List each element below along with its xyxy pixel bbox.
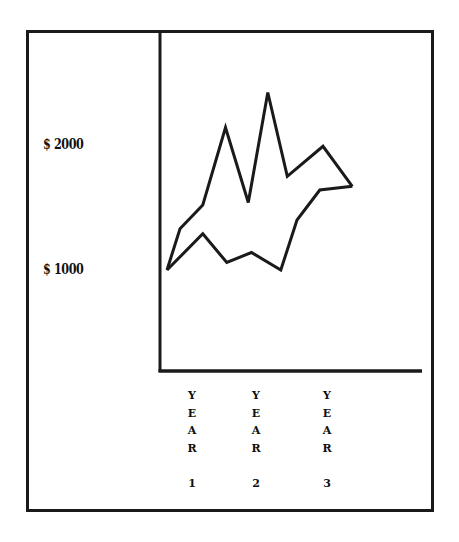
series-lower-line <box>167 186 352 270</box>
x-tick-label-year-2: Y E A R 2 <box>249 387 263 493</box>
x-label-number: 3 <box>320 475 334 493</box>
x-label-number: 2 <box>249 475 263 493</box>
x-label-letter: R <box>320 440 334 458</box>
x-label-letter: R <box>249 440 263 458</box>
y-tick-label-2000: $ 2000 <box>43 136 83 152</box>
x-tick-label-year-3: Y E A R 3 <box>320 387 334 493</box>
x-label-letter: A <box>320 422 334 440</box>
x-label-letter: E <box>185 405 199 423</box>
x-label-letter: E <box>249 405 263 423</box>
x-tick-label-year-1: Y E A R 1 <box>185 387 199 493</box>
x-label-letter: E <box>320 405 334 423</box>
y-tick-label-1000: $ 1000 <box>43 261 83 277</box>
x-label-letter: Y <box>185 387 199 405</box>
x-label-number: 1 <box>185 475 199 493</box>
x-label-letter: Y <box>320 387 334 405</box>
x-label-letter: A <box>185 422 199 440</box>
x-label-letter: Y <box>249 387 263 405</box>
x-label-letter: A <box>249 422 263 440</box>
x-label-letter: R <box>185 440 199 458</box>
